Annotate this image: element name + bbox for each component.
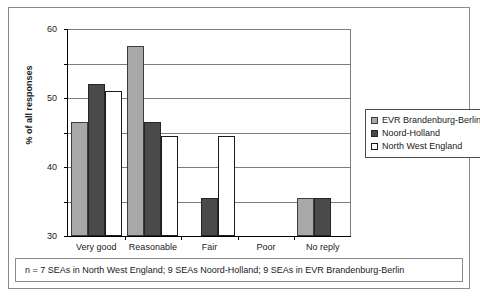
y-tick-label-30: 30 [47, 231, 57, 241]
bar [314, 198, 331, 236]
x-axis-separator [181, 236, 182, 240]
legend-item: Noord-Holland [371, 127, 480, 140]
x-axis-separator [238, 236, 239, 240]
bar [127, 46, 144, 236]
category-label-reasonable: Reasonable [129, 242, 177, 252]
y-tick-label-40: 40 [47, 162, 57, 172]
bar [144, 122, 161, 236]
y-tick-mark-10: 10 [64, 202, 68, 203]
footnote-text: n = 7 SEAs in North West England; 9 SEAs… [25, 265, 404, 275]
x-axis-separator [294, 236, 295, 240]
y-tick-mark-20: 20 [64, 167, 68, 168]
category-label-very-good: Very good [76, 242, 117, 252]
legend-item: North West England [371, 140, 480, 153]
legend-label: Noord-Holland [382, 128, 440, 139]
chart-area: % of all responses 0102030405060 Very go… [9, 8, 471, 253]
x-axis-separator [125, 236, 126, 240]
y-tick-mark-40: 40 [64, 98, 68, 99]
bar [218, 136, 235, 236]
y-tick-label-60: 60 [47, 24, 57, 34]
y-tick-mark-30: 30 [64, 133, 68, 134]
category-label-fair: Fair [202, 242, 218, 252]
bar [201, 198, 218, 236]
footnote-box: n = 7 SEAs in North West England; 9 SEAs… [15, 258, 463, 282]
plot-box: 0102030405060 Very goodReasonableFairPoo… [67, 29, 351, 237]
gridline-50 [68, 64, 351, 65]
bar [88, 84, 105, 236]
y-tick-mark-0: 0 [64, 236, 68, 237]
category-label-no-reply: No reply [306, 242, 340, 252]
y-tick-mark-60: 60 [64, 29, 68, 30]
legend-swatch-icon [371, 143, 378, 150]
y-axis-title: % of all responses [24, 45, 34, 165]
legend-label: North West England [382, 141, 462, 152]
figure-frame: % of all responses 0102030405060 Very go… [8, 7, 470, 289]
chart-legend: EVR Brandenburg-BerlinNoord-HollandNorth… [365, 109, 480, 158]
legend-label: EVR Brandenburg-Berlin [382, 115, 480, 126]
legend-swatch-icon [371, 130, 378, 137]
y-tick-mark-50: 50 [64, 64, 68, 65]
gridline-60 [68, 29, 351, 30]
bar [161, 136, 178, 236]
bar [105, 91, 122, 236]
category-label-poor: Poor [257, 242, 276, 252]
legend-swatch-icon [371, 117, 378, 124]
y-tick-label-50: 50 [47, 93, 57, 103]
bar [297, 198, 314, 236]
bar [71, 122, 88, 236]
legend-item: EVR Brandenburg-Berlin [371, 114, 480, 127]
